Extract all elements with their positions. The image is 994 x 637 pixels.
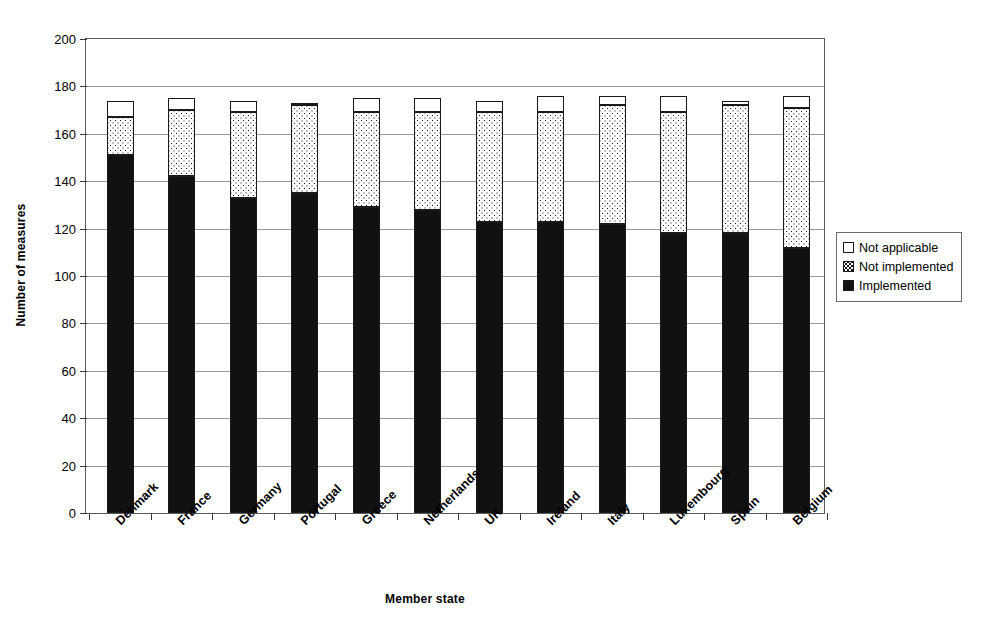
bar-segment-implemented [660, 233, 687, 513]
chart-page: Number of measures 020406080100120140160… [0, 0, 994, 637]
bar-segment-not-applicable [660, 96, 687, 113]
y-axis-tick [80, 513, 87, 514]
bar-uk[interactable] [476, 39, 503, 513]
gridline [86, 181, 824, 182]
y-axis-tick-label: 80 [36, 316, 76, 331]
bar-belgium[interactable] [783, 39, 810, 513]
y-axis-tick [80, 229, 87, 230]
y-axis-tick-label: 40 [36, 411, 76, 426]
legend-item-label: Not applicable [859, 241, 938, 255]
dotted-square-icon [843, 261, 854, 272]
bar-segment-implemented [353, 207, 380, 513]
x-axis-tick [704, 513, 705, 520]
bar-segment-not-implemented [660, 112, 687, 233]
bar-segment-not-implemented [230, 112, 257, 197]
y-axis-tick-label: 100 [36, 269, 76, 284]
gridline [86, 418, 824, 419]
bar-segment-implemented [476, 222, 503, 514]
gridline [86, 466, 824, 467]
bar-france[interactable] [168, 39, 195, 513]
gridline [86, 323, 824, 324]
y-axis-tick-label: 140 [36, 174, 76, 189]
bar-italy[interactable] [599, 39, 626, 513]
y-axis-tick-label: 160 [36, 126, 76, 141]
gridline [86, 86, 824, 87]
bar-ireland[interactable] [537, 39, 564, 513]
bar-segment-implemented [537, 222, 564, 514]
y-axis-tick [80, 466, 87, 467]
bar-segment-not-applicable [537, 96, 564, 113]
bar-segment-implemented [599, 224, 626, 513]
bar-segment-not-applicable [107, 101, 134, 118]
white-square-icon [843, 242, 854, 253]
bar-segment-implemented [291, 193, 318, 513]
x-axis-tick [458, 513, 459, 520]
x-axis-tick [827, 513, 828, 520]
bar-segment-not-implemented [168, 110, 195, 176]
legend-item-label: Not implemented [859, 260, 954, 274]
gridline [86, 229, 824, 230]
bar-spain[interactable] [722, 39, 749, 513]
x-axis-tick [643, 513, 644, 520]
bar-portugal[interactable] [291, 39, 318, 513]
y-axis-tick-label: 20 [36, 458, 76, 473]
x-axis-tick [397, 513, 398, 520]
x-axis-tick [520, 513, 521, 520]
y-axis-tick [80, 276, 87, 277]
x-axis-tick [766, 513, 767, 520]
bar-segment-not-implemented [476, 112, 503, 221]
legend-item[interactable]: Implemented [843, 276, 954, 295]
y-axis-title: Number of measures [14, 150, 34, 380]
x-axis-tick [335, 513, 336, 520]
bar-segment-not-implemented [291, 105, 318, 193]
bar-segment-not-applicable [353, 98, 380, 112]
bar-segment-not-applicable [476, 101, 503, 113]
bar-segment-not-applicable [230, 101, 257, 113]
y-axis-tick [80, 323, 87, 324]
bar-segment-not-implemented [107, 117, 134, 155]
bar-segment-not-applicable [291, 103, 318, 105]
bar-segment-implemented [414, 210, 441, 513]
x-axis-tick [89, 513, 90, 520]
bar-segment-implemented [783, 248, 810, 513]
bar-greece[interactable] [353, 39, 380, 513]
legend-item-label: Implemented [859, 279, 931, 293]
y-axis-tick-label: 180 [36, 79, 76, 94]
y-axis-tick [80, 371, 87, 372]
x-axis-tick [151, 513, 152, 520]
bar-segment-not-applicable [783, 96, 810, 108]
y-axis-tick [80, 418, 87, 419]
bar-segment-not-applicable [414, 98, 441, 112]
bar-luxembourg[interactable] [660, 39, 687, 513]
bar-segment-not-implemented [783, 108, 810, 248]
gridline [86, 371, 824, 372]
y-axis-tick-label: 200 [36, 32, 76, 47]
bar-segment-not-implemented [537, 112, 564, 221]
bar-segment-not-applicable [599, 96, 626, 105]
bar-segment-not-applicable [722, 101, 749, 106]
bar-segment-implemented [168, 176, 195, 513]
bar-segment-not-implemented [599, 105, 626, 224]
legend-item[interactable]: Not implemented [843, 257, 954, 276]
gridline [86, 134, 824, 135]
black-square-icon [843, 280, 854, 291]
legend-item[interactable]: Not applicable [843, 238, 954, 257]
gridline [86, 276, 824, 277]
chart-legend: Not applicableNot implementedImplemented [836, 232, 962, 302]
bar-segment-not-implemented [722, 105, 749, 233]
y-axis-tick-label: 0 [36, 506, 76, 521]
bar-netherlands[interactable] [414, 39, 441, 513]
bar-segment-not-applicable [168, 98, 195, 110]
y-axis-tick [80, 181, 87, 182]
x-axis-title: Member state [0, 592, 850, 606]
bar-denmark[interactable] [107, 39, 134, 513]
bar-germany[interactable] [230, 39, 257, 513]
y-axis-tick [80, 39, 87, 40]
plot-area: 020406080100120140160180200 [85, 38, 825, 514]
x-axis-tick [212, 513, 213, 520]
x-axis-tick [581, 513, 582, 520]
x-axis-tick [274, 513, 275, 520]
bar-segment-not-implemented [414, 112, 441, 209]
y-axis-tick-label: 120 [36, 221, 76, 236]
bar-segment-not-implemented [353, 112, 380, 207]
